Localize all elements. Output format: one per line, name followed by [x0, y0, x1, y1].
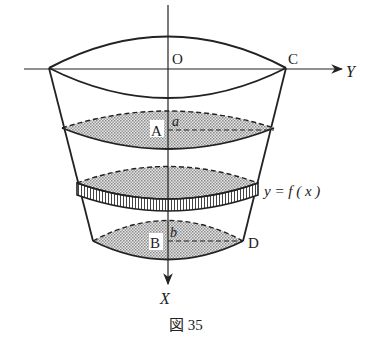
figure-caption: 図 35: [169, 317, 203, 333]
point-c-label: C: [288, 51, 298, 67]
diagram-canvas: O C Y A a y = f ( x ) B b D X 図 35: [0, 0, 377, 350]
var-b-label: b: [170, 225, 177, 240]
curve-label: y = f ( x ): [262, 183, 320, 200]
point-b-label: B: [150, 235, 160, 251]
var-a-label: a: [172, 114, 179, 129]
right-wall: [243, 68, 286, 241]
solid-of-revolution-figure: O C Y A a y = f ( x ) B b D X 図 35: [0, 0, 377, 350]
y-axis-label: Y: [346, 63, 357, 80]
left-wall: [49, 68, 93, 241]
x-axis-label: X: [159, 290, 171, 307]
point-d-label: D: [248, 235, 259, 251]
origin-label: O: [172, 51, 183, 67]
point-a-label: A: [151, 123, 162, 139]
